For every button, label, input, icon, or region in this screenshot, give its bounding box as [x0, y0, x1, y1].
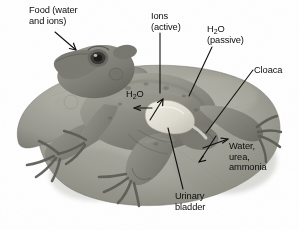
label-waste-line3: ammonia — [229, 162, 267, 172]
label-urinary-bladder-line2: bladder — [175, 202, 205, 212]
label-cloaca: Cloaca — [254, 65, 282, 76]
label-waste-products: Water, urea, ammonia — [229, 141, 267, 173]
figure-container: Food (water and ions) Ions (active) H2O … — [0, 0, 299, 230]
label-ions: Ions (active) — [151, 11, 181, 32]
label-food-line1: Food (water — [29, 5, 78, 15]
h2o-internal-h: H — [126, 89, 133, 99]
label-food-line2: and ions) — [29, 16, 66, 26]
label-waste-line1: Water, — [229, 141, 255, 151]
frog-lily-pad-illustration — [0, 0, 299, 230]
label-ions-line2: (active) — [151, 22, 181, 32]
label-urinary-bladder-line1: Urinary — [175, 191, 204, 201]
label-urinary-bladder: Urinary bladder — [175, 191, 205, 212]
label-waste-line2: urea, — [229, 152, 250, 162]
label-food: Food (water and ions) — [29, 5, 78, 26]
label-h2o-passive-formula: H2O — [207, 24, 225, 34]
h2o-internal-o: O — [136, 89, 143, 99]
h2o-passive-h: H — [207, 24, 214, 34]
label-h2o-passive: H2O (passive) — [207, 24, 244, 45]
label-h2o-passive-line2: (passive) — [207, 35, 244, 45]
label-ions-line1: Ions — [151, 11, 168, 21]
label-h2o-internal: H2O — [126, 89, 144, 100]
h2o-passive-o: O — [217, 24, 224, 34]
